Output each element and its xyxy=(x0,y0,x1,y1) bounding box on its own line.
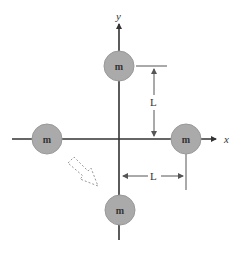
y-axis-label: y xyxy=(115,10,121,22)
dashed-direction-arrow-icon xyxy=(68,157,98,186)
mass-top: m xyxy=(104,51,134,81)
horizontal-dimension-label: L xyxy=(150,170,157,182)
mass-left: m xyxy=(32,124,62,154)
mass-left-label: m xyxy=(43,134,52,145)
mass-bottom: m xyxy=(105,195,135,225)
vertical-dimension: L xyxy=(136,66,167,136)
horizontal-dimension: L xyxy=(123,154,186,190)
x-axis-label: x xyxy=(223,133,229,145)
mass-top-label: m xyxy=(115,61,124,72)
mass-bottom-label: m xyxy=(116,205,125,216)
mass-right: m xyxy=(171,124,201,154)
rigid-body-diagram: y x L L m m m m xyxy=(0,0,242,253)
vertical-dimension-label: L xyxy=(150,96,157,108)
mass-right-label: m xyxy=(182,134,191,145)
